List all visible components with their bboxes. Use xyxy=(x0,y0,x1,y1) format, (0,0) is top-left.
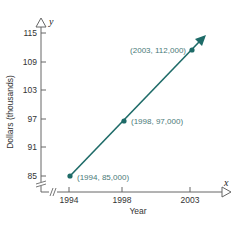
x-axis-variable: x xyxy=(223,177,229,188)
data-point xyxy=(67,173,72,178)
y-tick-label: 109 xyxy=(23,57,37,67)
y-axis-arrow-icon xyxy=(36,18,46,27)
x-tick-label: 1998 xyxy=(113,195,132,205)
data-point xyxy=(189,47,194,52)
y-tick-label: 103 xyxy=(23,85,37,95)
y-tick-label: 85 xyxy=(28,171,38,181)
x-ticks xyxy=(69,187,190,192)
x-axis-break-icon xyxy=(50,188,56,196)
y-ticks xyxy=(41,33,46,176)
y-axis-variable: y xyxy=(48,16,54,27)
x-tick-label: 1994 xyxy=(60,195,79,205)
y-tick-label: 115 xyxy=(23,28,37,38)
x-axis-arrow-icon xyxy=(222,187,231,197)
line-chart: y x 115 109 103 97 91 85 1994 1998 2003 … xyxy=(0,0,237,225)
point-label: (2003, 112,000) xyxy=(130,46,186,55)
y-axis-title: Dollars (thousands) xyxy=(5,75,15,149)
data-point xyxy=(121,118,126,123)
y-tick-label: 91 xyxy=(28,142,38,152)
point-label: (1998, 97,000) xyxy=(131,117,183,126)
y-tick-label: 97 xyxy=(28,114,38,124)
point-label: (1994, 85,000) xyxy=(77,173,129,182)
x-tick-label: 2003 xyxy=(181,195,200,205)
data-line xyxy=(70,42,199,176)
x-axis-title: Year xyxy=(129,206,146,216)
